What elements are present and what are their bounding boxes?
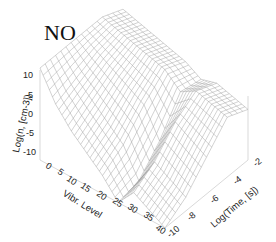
z-tick: 10 bbox=[23, 70, 33, 80]
x-tick: 5 bbox=[56, 166, 66, 177]
mesh-line bbox=[81, 43, 164, 144]
mesh-line bbox=[82, 34, 207, 157]
y-tick: -6 bbox=[208, 193, 220, 206]
y-axis-label: Log(Time, [s]) bbox=[208, 184, 260, 230]
y-tick: -8 bbox=[185, 210, 197, 223]
y-axis-line bbox=[165, 160, 248, 228]
mesh-line bbox=[84, 46, 167, 149]
z-tick: -5 bbox=[26, 128, 34, 138]
mesh-line bbox=[65, 30, 148, 120]
x-tick: 40 bbox=[154, 222, 168, 236]
mesh-line bbox=[109, 69, 192, 187]
mesh-line bbox=[123, 9, 248, 109]
mesh-line bbox=[149, 96, 232, 210]
mesh-line bbox=[113, 13, 238, 113]
z-axis-label: Log(n, [cm-3]) bbox=[10, 93, 33, 153]
x-ticks: 0 5 10 15 20 25 30 35 40 bbox=[44, 160, 168, 236]
x-tick: 20 bbox=[95, 188, 109, 202]
mesh-line bbox=[140, 88, 223, 199]
z-tick: -10 bbox=[23, 147, 36, 157]
x-tick: 35 bbox=[142, 209, 156, 223]
chart-title: NO bbox=[44, 20, 76, 45]
surface-plot: NO 10 5 0 -5 -10 Log(n, [cm-3]) 0 5 10 1… bbox=[0, 0, 276, 242]
mesh-line bbox=[97, 21, 222, 127]
mesh-line bbox=[76, 38, 201, 167]
mesh-line bbox=[156, 102, 239, 218]
x-tick: 10 bbox=[65, 173, 79, 187]
y-tick: -4 bbox=[231, 174, 243, 187]
x-tick: 0 bbox=[44, 160, 54, 171]
y-tick: -2 bbox=[251, 156, 263, 169]
